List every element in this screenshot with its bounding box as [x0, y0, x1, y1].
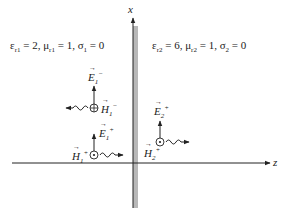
incident-wave-arrow	[100, 153, 123, 157]
reflected-wave-arrow	[66, 106, 88, 110]
diagram-canvas	[0, 0, 290, 217]
into-page-icon	[90, 104, 98, 112]
label-e1-plus: E1+	[99, 128, 114, 139]
label-e2-plus: E2+	[154, 106, 169, 117]
out-of-page-icon	[156, 138, 164, 146]
x-axis-label: x	[128, 4, 133, 15]
label-h1-plus: H1+	[72, 151, 88, 162]
label-h1-minus: H1−	[101, 104, 117, 115]
region2-parameters: εr2 = 6, μr2 = 1, σ2 = 0	[152, 40, 246, 51]
label-e1-minus: E1−	[88, 72, 103, 83]
transmitted-wave-arrow	[166, 140, 189, 144]
out-of-page-icon	[90, 151, 98, 159]
interface-boundary	[133, 26, 138, 208]
z-axis-label: z	[273, 157, 277, 168]
label-h2-plus: H2+	[144, 148, 160, 159]
region1-parameters: εr1 = 2, μr1 = 1, σ1 = 0	[10, 40, 104, 51]
